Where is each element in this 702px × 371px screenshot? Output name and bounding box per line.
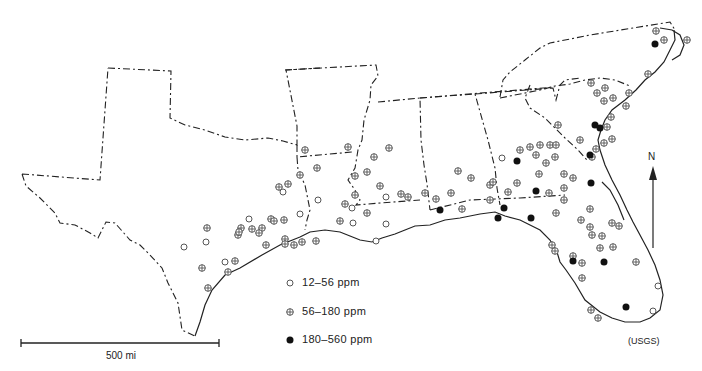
sample-point-mid (597, 245, 604, 252)
sample-point-mid (468, 175, 475, 182)
sample-point-mid (364, 169, 371, 176)
sample-point-mid (514, 180, 521, 187)
sample-point-high (588, 180, 595, 187)
source-credit: (USGS) (628, 336, 660, 346)
open-circle-icon (287, 280, 293, 286)
sample-point-mid (561, 197, 568, 204)
sample-point-high (601, 259, 608, 266)
sample-point-mid (313, 238, 320, 245)
sample-point-mid (594, 90, 601, 97)
sample-point-low (383, 194, 389, 200)
sample-point-mid (589, 232, 596, 239)
sample-point-mid (487, 197, 494, 204)
sample-point-high (495, 215, 502, 222)
sample-point-mid (398, 191, 405, 198)
sample-point-mid (604, 124, 611, 131)
sample-point-mid (555, 122, 562, 129)
sample-point-mid (552, 248, 559, 255)
sample-point-mid (537, 142, 544, 149)
sample-point-high (514, 158, 521, 165)
sample-point-mid (232, 258, 239, 265)
north-arrow-icon (649, 166, 657, 248)
sample-point-mid (236, 229, 243, 236)
sample-point-mid (553, 142, 560, 149)
sample-point-mid (579, 275, 586, 282)
sample-point-mid (553, 210, 560, 217)
sample-point-mid (204, 225, 211, 232)
sample-point-low (499, 155, 505, 161)
sample-point-high (528, 215, 535, 222)
sample-point-high (652, 41, 659, 48)
filled-circle-icon (287, 337, 294, 344)
sample-point-mid (533, 152, 540, 159)
sample-point-mid (610, 95, 617, 102)
sample-point-mid (249, 226, 256, 233)
sample-point-high (623, 304, 630, 311)
sample-point-mid (570, 175, 577, 182)
legend-label-high: 180–560 ppm (302, 333, 373, 345)
sample-point-mid (609, 136, 616, 143)
sample-point-low (383, 221, 389, 227)
sample-point-high (533, 188, 540, 195)
sample-point-mid (205, 285, 212, 292)
sample-point-mid (587, 206, 594, 213)
sample-point-low (297, 211, 303, 217)
sample-point-mid (527, 144, 534, 151)
sample-point-mid (364, 210, 371, 217)
sample-point-mid (377, 183, 384, 190)
sample-point-mid (386, 145, 393, 152)
outer-banks (660, 28, 684, 60)
sample-point-mid (608, 114, 615, 121)
sample-point-mid (653, 28, 660, 35)
sample-point-mid (561, 171, 568, 178)
sample-point-mid (297, 172, 304, 179)
sample-point-low (246, 216, 252, 222)
sample-point-mid (352, 192, 359, 199)
sample-point-mid (588, 80, 595, 87)
sample-point-mid (459, 206, 466, 213)
sample-point-mid (422, 190, 429, 197)
texas-oklahoma-boundary (22, 68, 320, 336)
florida-east-lagoon (602, 182, 624, 220)
sample-point-mid (352, 173, 359, 180)
sample-point-mid (623, 103, 630, 110)
legend (287, 280, 294, 344)
sample-point-mid (405, 194, 412, 201)
sample-point-mid (610, 244, 617, 251)
sample-point-mid (285, 181, 292, 188)
sample-point-low (203, 239, 209, 245)
sample-point-mid (433, 196, 440, 203)
sample-point-mid (199, 265, 206, 272)
sample-point-mid (578, 217, 585, 224)
sample-point-low (222, 259, 228, 265)
sample-point-mid (505, 189, 512, 196)
sample-point-mid (579, 260, 586, 267)
sample-point-mid (661, 37, 668, 44)
sample-point-mid (490, 179, 497, 186)
sample-point-low (373, 238, 379, 244)
sample-point-mid (577, 137, 584, 144)
sample-point-high (587, 152, 594, 159)
sample-point-mid (601, 140, 608, 147)
sample-point-mid (225, 269, 232, 276)
sample-point-mid (561, 185, 568, 192)
sample-point-mid (595, 315, 602, 322)
sample-point-mid (342, 201, 349, 208)
sample-point-mid (276, 184, 283, 191)
sample-point-low (350, 220, 356, 226)
sample-point-low (181, 244, 187, 250)
sample-point-mid (552, 154, 559, 161)
sample-point-low (650, 308, 656, 314)
sample-point-mid (616, 223, 623, 230)
sample-point-mid (684, 37, 691, 44)
sample-point-mid (337, 218, 344, 225)
sample-point-mid (371, 154, 378, 161)
sample-point-mid (291, 242, 298, 249)
sample-point-mid (314, 165, 321, 172)
north-label: N (648, 151, 655, 162)
sample-point-mid (549, 242, 556, 249)
sample-point-high (592, 122, 599, 129)
sample-point-mid (263, 242, 270, 249)
sample-point-high (437, 207, 444, 214)
sample-point-high (501, 205, 508, 212)
